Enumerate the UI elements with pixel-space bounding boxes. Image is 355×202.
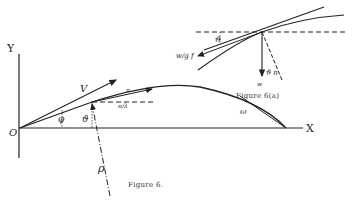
velocity-label: V <box>80 83 89 94</box>
velocity-vector <box>20 80 116 128</box>
phi-label: φ <box>58 114 65 124</box>
tangent-arrow <box>92 89 152 102</box>
theta-label: ϑ <box>82 114 89 124</box>
tangential-force-arrow <box>198 32 262 56</box>
tangent-force-label: w/g f <box>176 52 195 60</box>
end-tangent <box>240 96 286 128</box>
inset-figure: ϑ w/g f ϑ n w Figure 6(a) <box>176 7 345 100</box>
omega-label: ω <box>240 107 247 116</box>
normal-force-label: ϑ n <box>266 69 278 77</box>
inset-tangent-line <box>204 7 324 50</box>
y-axis-label: Y <box>6 42 15 55</box>
main-figure: Y X O V φ ϑ ω π π/λ ρ Figure 6. <box>6 42 314 196</box>
inset-angle-label: ϑ <box>215 35 221 44</box>
origin-label: O <box>9 127 17 138</box>
weight-label: w <box>257 80 263 87</box>
figure-6a-caption: Figure 6(a) <box>236 92 279 100</box>
figure-6-caption: Figure 6. <box>128 181 163 189</box>
x-axis-label: X <box>306 122 314 135</box>
radius-line <box>92 104 110 196</box>
small-label-2: π/λ <box>117 102 128 109</box>
trajectory-diagram: Y X O V φ ϑ ω π π/λ ρ Figure 6. ϑ w/g f … <box>0 0 355 202</box>
radius-label: ρ <box>97 162 105 175</box>
